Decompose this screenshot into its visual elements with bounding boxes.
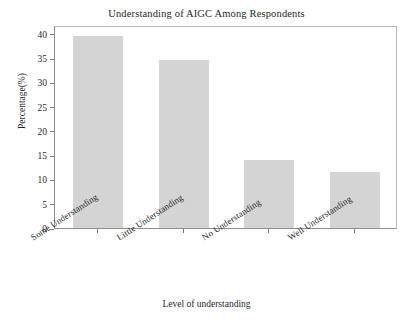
bar-3 [244,160,294,228]
y-tick-5: 5 [0,199,54,211]
y-tick-35: 35 [0,53,54,65]
y-axis-ticks: 0510152025303540 [0,0,54,322]
y-tick-30: 30 [0,77,54,89]
x-tick-mark-3 [268,229,269,233]
y-tick-40: 40 [0,29,54,41]
x-tick-mark-4 [354,229,355,233]
bar-chart-figure: Understanding of AIGC Among Respondents … [0,0,413,322]
y-tick-15: 15 [0,150,54,162]
chart-title: Understanding of AIGC Among Respondents [0,8,413,19]
x-axis-label: Level of understanding [0,299,413,309]
x-tick-mark-2 [183,229,184,233]
y-tick-25: 25 [0,102,54,114]
y-tick-20: 20 [0,126,54,138]
y-tick-10: 10 [0,174,54,186]
x-tick-mark-1 [97,229,98,233]
